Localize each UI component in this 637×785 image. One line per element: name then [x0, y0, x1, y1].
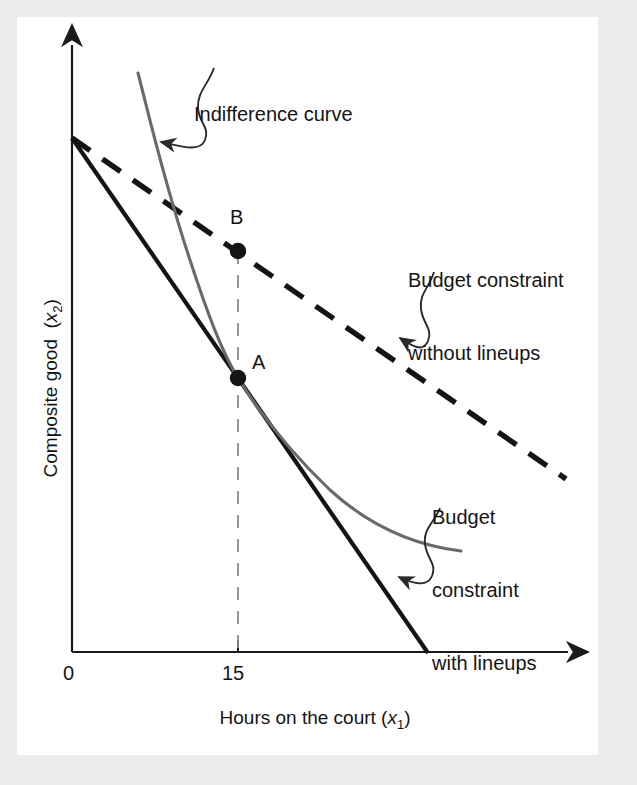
x-axis-label-prefix: Hours on the court ( — [220, 707, 388, 728]
annotation-budget-without-lineups: Budget constraint without lineups — [408, 219, 564, 414]
annotation-with-line-1: Budget — [432, 505, 537, 529]
x-axis-label-variable: x — [387, 707, 397, 728]
x-axis-label-suffix: ) — [404, 707, 410, 728]
annotation-with-line-2: constraint — [432, 578, 537, 602]
point-label-b: B — [230, 205, 243, 229]
point-label-a: A — [252, 350, 265, 374]
annotation-without-line-2: without lineups — [408, 341, 564, 365]
annotation-with-line-3: with lineups — [432, 651, 537, 675]
x-tick-label-15: 15 — [222, 661, 244, 685]
annotation-indifference-curve: Indifference curve — [194, 53, 353, 175]
y-axis-label-prefix: Composite good ( — [40, 322, 61, 477]
y-axis-label-suffix: ) — [40, 299, 61, 305]
y-axis-label-variable: x — [40, 313, 61, 323]
point-marker-b — [230, 243, 246, 259]
x-tick-label-0: 0 — [63, 661, 74, 685]
y-axis-label: Composite good (x2) — [39, 258, 66, 518]
x-axis-label: Hours on the court (x1) — [160, 706, 470, 733]
y-axis-label-subscript: 2 — [50, 305, 65, 312]
annotation-without-line-1: Budget constraint — [408, 268, 564, 292]
annotation-indifference-line-1: Indifference curve — [194, 102, 353, 126]
annotation-budget-with-lineups: Budget constraint with lineups — [432, 456, 537, 724]
point-marker-a — [230, 370, 246, 386]
figure-container: Composite good (x2) Hours on the court (… — [0, 0, 637, 785]
